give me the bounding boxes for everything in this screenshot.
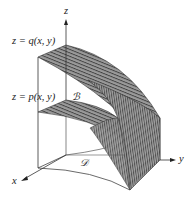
lower-surface-label: z = p(x, y) <box>12 92 55 103</box>
upper-surface-label: z = q(x, y) <box>12 36 55 47</box>
x-axis-arrow <box>21 176 28 181</box>
z-axis-arrow <box>64 19 68 25</box>
solid-region-label: ℬ <box>72 92 80 102</box>
y-axis-label: y <box>179 154 184 165</box>
base-region-label: 𝒟 <box>80 158 88 168</box>
z-axis-label: z <box>64 6 68 17</box>
x-axis <box>24 155 66 179</box>
y-axis-arrow <box>170 158 176 162</box>
base-region-d <box>38 168 130 190</box>
x-axis-label: x <box>12 176 17 187</box>
region-diagram <box>0 0 195 207</box>
